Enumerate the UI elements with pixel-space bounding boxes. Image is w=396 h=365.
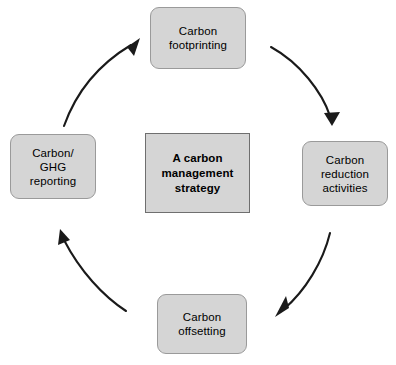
arrowhead-to-footprinting: [127, 38, 140, 56]
node-carbon-ghg-reporting: Carbon/ GHG reporting: [10, 134, 96, 199]
node-carbon-ghg-reporting-label: Carbon/ GHG reporting: [26, 146, 80, 188]
node-carbon-footprinting: Carbon footprinting: [150, 7, 246, 69]
arrowhead-to-offsetting: [275, 296, 289, 317]
node-carbon-management-strategy: A carbon management strategy: [145, 133, 250, 213]
arrowhead-to-reporting: [58, 229, 70, 245]
node-carbon-footprinting-label: Carbon footprinting: [165, 24, 231, 52]
arrow-offsetting-to-reporting: [64, 240, 126, 311]
node-carbon-reduction-activities: Carbon reduction activities: [302, 141, 388, 206]
node-carbon-offsetting-label: Carbon offsetting: [174, 310, 229, 338]
node-carbon-management-strategy-label: A carbon management strategy: [158, 151, 238, 196]
node-carbon-reduction-activities-label: Carbon reduction activities: [317, 153, 373, 195]
node-carbon-offsetting: Carbon offsetting: [157, 294, 247, 354]
carbon-management-strategy-diagram: Carbon footprinting Carbon reduction act…: [0, 0, 396, 365]
arrow-footprinting-to-reduction: [271, 47, 330, 116]
arrow-reduction-to-offsetting: [284, 233, 330, 309]
arrowhead-to-reduction: [324, 112, 340, 126]
arrow-reporting-to-footprinting: [64, 45, 131, 126]
